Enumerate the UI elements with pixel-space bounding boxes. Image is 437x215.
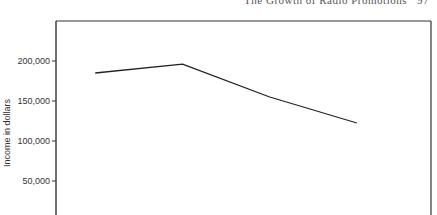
line-chart: 50,000100,000150,000200,000 Income in do… bbox=[0, 0, 437, 215]
series-layer bbox=[95, 64, 357, 123]
y-axis-label: Income in dollars bbox=[2, 98, 12, 167]
y-tick-label: 50,000 bbox=[22, 176, 50, 186]
series-line bbox=[95, 64, 357, 123]
y-tick-label: 200,000 bbox=[17, 56, 50, 66]
y-tick-label: 150,000 bbox=[17, 96, 50, 106]
y-tick-label: 100,000 bbox=[17, 136, 50, 146]
y-axis: 50,000100,000150,000200,000 bbox=[17, 56, 56, 186]
plot-frame bbox=[56, 21, 431, 215]
